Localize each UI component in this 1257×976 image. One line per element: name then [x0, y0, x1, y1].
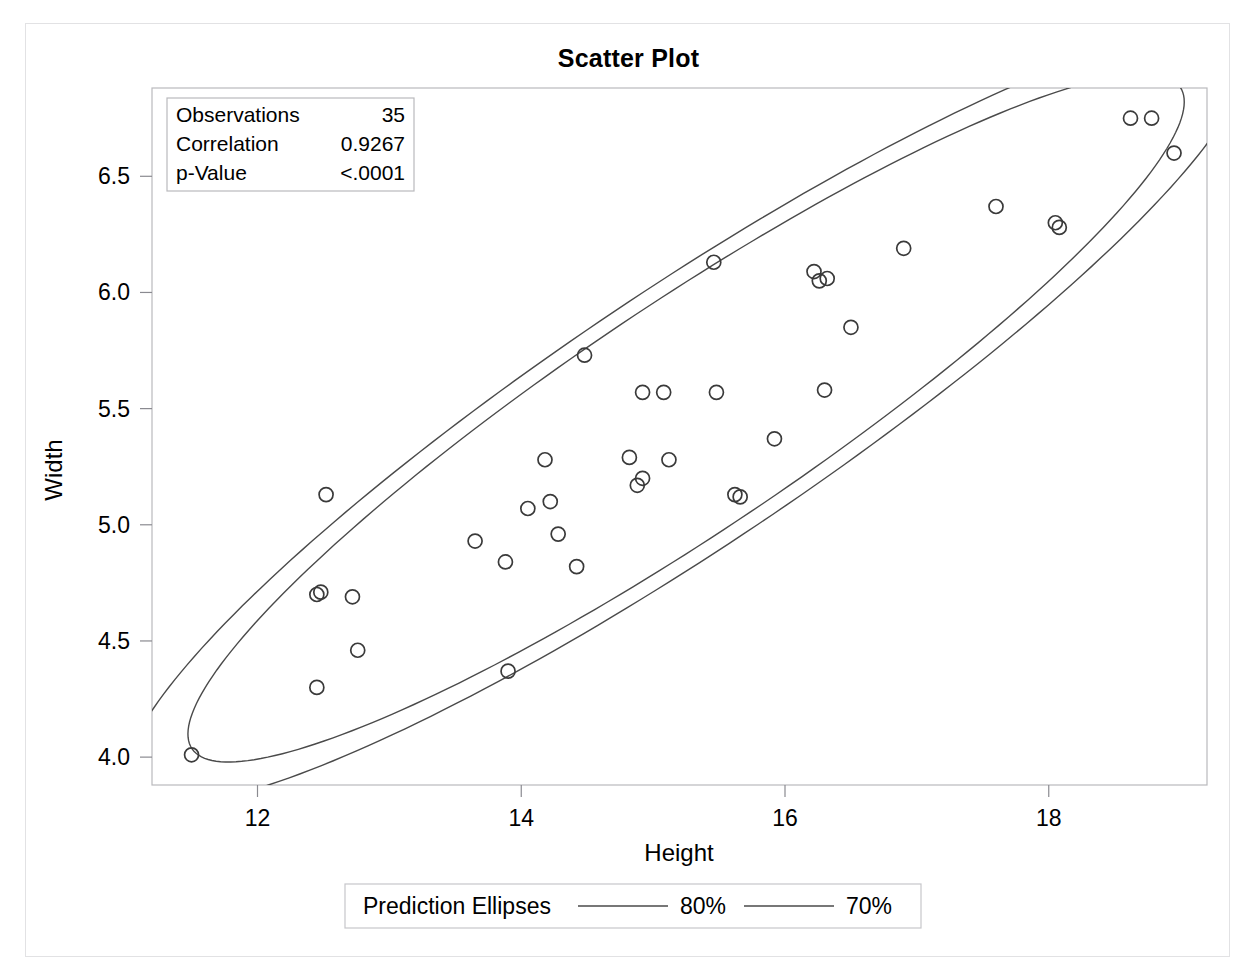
legend-label-70: 70% — [846, 893, 892, 919]
data-point — [314, 585, 328, 599]
data-point — [551, 527, 565, 541]
y-tick-label: 4.5 — [98, 628, 130, 654]
y-tick-label: 5.0 — [98, 512, 130, 538]
data-point — [622, 450, 636, 464]
x-tick-label: 16 — [772, 805, 798, 831]
plot-frame — [152, 88, 1207, 785]
data-point — [733, 490, 747, 504]
x-axis-ticks: 12141618 — [245, 785, 1062, 831]
data-point — [767, 432, 781, 446]
legend-label-80: 80% — [680, 893, 726, 919]
data-point — [498, 555, 512, 569]
data-point — [345, 590, 359, 604]
data-point — [578, 348, 592, 362]
y-tick-label: 5.5 — [98, 396, 130, 422]
stat-value-p-value: <.0001 — [340, 161, 405, 184]
x-axis-label: Height — [644, 839, 714, 866]
data-point — [185, 748, 199, 762]
y-tick-label: 4.0 — [98, 744, 130, 770]
data-point — [636, 385, 650, 399]
data-point — [310, 680, 324, 694]
data-point — [1167, 146, 1181, 160]
x-tick-label: 18 — [1036, 805, 1062, 831]
stat-label-observations: Observations — [176, 103, 300, 126]
y-tick-label: 6.0 — [98, 279, 130, 305]
data-point-markers — [185, 111, 1181, 762]
y-axis-label: Width — [40, 439, 67, 500]
data-point — [844, 320, 858, 334]
data-point — [657, 385, 671, 399]
data-point — [570, 560, 584, 574]
data-point — [1124, 111, 1138, 125]
data-point — [538, 453, 552, 467]
data-point — [1048, 216, 1062, 230]
data-point — [1145, 111, 1159, 125]
data-point — [709, 385, 723, 399]
legend: Prediction Ellipses 80% 70% — [345, 884, 921, 928]
data-point — [319, 488, 333, 502]
data-point — [468, 534, 482, 548]
y-tick-label: 6.5 — [98, 163, 130, 189]
stat-value-observations: 35 — [382, 103, 405, 126]
data-point — [351, 643, 365, 657]
statistics-box: Observations 35 Correlation 0.9267 p-Val… — [167, 98, 414, 191]
data-point — [662, 453, 676, 467]
data-point — [820, 272, 834, 286]
data-point — [543, 495, 557, 509]
scatter-plot-page: Scatter Plot 12141618 4.04.55.05.56.06.5… — [0, 0, 1257, 976]
stat-value-correlation: 0.9267 — [341, 132, 405, 155]
data-point — [521, 502, 535, 516]
data-point — [1052, 220, 1066, 234]
data-point — [818, 383, 832, 397]
y-axis-ticks: 4.04.55.05.56.06.5 — [98, 163, 152, 770]
legend-title: Prediction Ellipses — [363, 893, 551, 919]
stat-label-correlation: Correlation — [176, 132, 279, 155]
x-tick-label: 12 — [245, 805, 271, 831]
scatter-plot-figure: 12141618 4.04.55.05.56.06.5 Height Width… — [0, 0, 1257, 976]
stat-label-p-value: p-Value — [176, 161, 247, 184]
x-tick-label: 14 — [508, 805, 534, 831]
data-point — [897, 241, 911, 255]
data-point — [989, 199, 1003, 213]
